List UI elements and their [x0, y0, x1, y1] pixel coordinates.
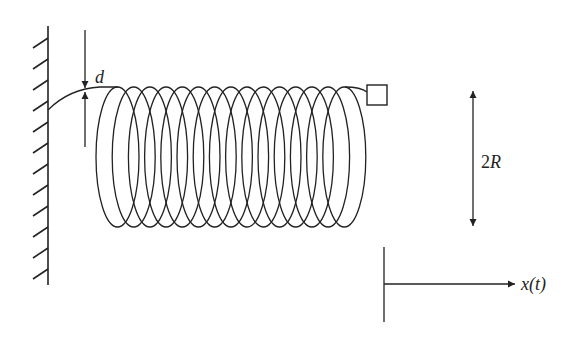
- wall-hatch: [33, 248, 48, 258]
- wall-hatch: [33, 185, 48, 195]
- wall-hatch: [33, 227, 48, 237]
- wall-hatch: [33, 101, 48, 111]
- wall-hatch: [33, 206, 48, 216]
- spring-coil: [177, 87, 220, 227]
- wall-hatch: [33, 80, 48, 90]
- spring-mass-diagram: d 2R x(t): [0, 0, 575, 340]
- wall-hatch: [33, 122, 48, 132]
- wall-hatch: [33, 59, 48, 69]
- fixed-wall: [33, 26, 48, 285]
- diameter-label-variable: R: [489, 152, 501, 172]
- spring-coil: [112, 87, 155, 227]
- spring-coil: [128, 87, 171, 227]
- connecting-wire: [48, 87, 118, 110]
- helical-spring: [96, 87, 366, 227]
- spring-coil: [242, 87, 285, 227]
- wall-hatch: [33, 269, 48, 279]
- displacement-axis: [384, 247, 515, 322]
- spring-coil: [145, 87, 188, 227]
- diameter-label: 2R: [481, 152, 501, 172]
- spring-coil: [323, 87, 366, 227]
- wall-hatch: [33, 164, 48, 174]
- diameter-label-number: 2: [481, 152, 490, 172]
- spring-coil: [161, 87, 204, 227]
- mass-block: [367, 85, 387, 105]
- wall-hatch: [33, 38, 48, 48]
- spring-coil: [226, 87, 269, 227]
- displacement-label: x(t): [520, 274, 546, 295]
- spring-coil: [209, 87, 252, 227]
- spring-coil: [274, 87, 317, 227]
- spring-coil: [96, 87, 139, 227]
- wall-hatch: [33, 143, 48, 153]
- spring-coil: [193, 87, 236, 227]
- spring-coil: [307, 87, 350, 227]
- spring-coil: [258, 87, 301, 227]
- d-label: d: [95, 67, 105, 87]
- spring-coil: [290, 87, 333, 227]
